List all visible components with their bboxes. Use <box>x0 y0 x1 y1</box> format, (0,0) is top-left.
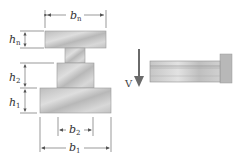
label-h2: h2 <box>9 71 21 85</box>
beam-body <box>150 61 220 82</box>
label-v: V <box>124 78 133 89</box>
cross-section <box>40 31 111 113</box>
dimension-hn <box>20 31 44 48</box>
load-arrow-icon <box>134 49 144 87</box>
bottom-block <box>40 88 111 113</box>
label-h1: h1 <box>9 96 21 110</box>
dimension-h1 <box>20 89 37 113</box>
top-flange <box>45 31 106 48</box>
label-b1: b1 <box>69 141 81 155</box>
figure-canvas: bn hn h2 h1 <box>0 0 239 165</box>
dimension-h2 <box>20 63 54 88</box>
middle-block <box>57 63 94 88</box>
web-connector <box>65 48 85 63</box>
label-bn: bn <box>70 9 82 23</box>
label-b2: b2 <box>69 123 81 137</box>
beam-side-view <box>150 54 232 83</box>
wall-support <box>220 54 232 83</box>
label-hn: hn <box>9 33 21 47</box>
